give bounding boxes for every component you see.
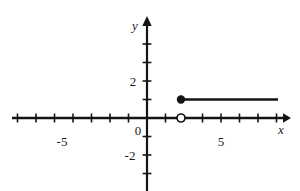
x-tick-label-neg5: -5 xyxy=(57,134,68,149)
x-axis-arrowhead xyxy=(283,113,291,123)
coordinate-plane: x y -5 5 2 0 -2 xyxy=(0,0,300,191)
origin-label: 0 xyxy=(135,123,142,138)
closed-endpoint-dot xyxy=(177,95,185,103)
y-axis-label: y xyxy=(130,18,138,33)
y-axis xyxy=(142,16,151,191)
x-axis xyxy=(12,113,291,123)
function-ray xyxy=(177,95,278,103)
open-endpoint-circle xyxy=(177,114,185,122)
y-tick-label-neg2: -2 xyxy=(125,148,136,163)
graph-figure: x y -5 5 2 0 -2 xyxy=(0,0,300,191)
y-tick-label-2: 2 xyxy=(130,74,137,89)
x-tick-label-5: 5 xyxy=(218,134,225,149)
y-axis-arrowhead xyxy=(142,16,151,26)
x-axis-label: x xyxy=(277,122,284,137)
